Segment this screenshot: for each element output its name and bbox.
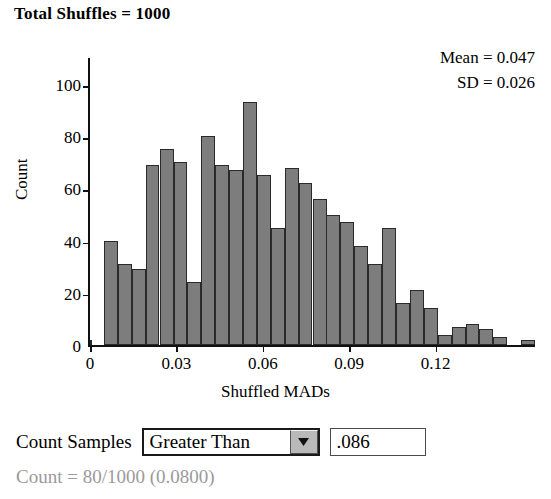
histogram-bars: [90, 58, 535, 345]
comparison-dropdown[interactable]: Greater Than: [142, 428, 320, 456]
histogram-bar: [424, 308, 438, 345]
histogram-bar: [340, 222, 354, 345]
y-tick-label: 0: [73, 337, 82, 357]
histogram-bar: [410, 290, 424, 345]
histogram-bar: [396, 303, 410, 345]
y-axis-label: Count: [12, 158, 32, 200]
y-tick-mark: [83, 138, 88, 140]
histogram-bar: [132, 269, 146, 345]
y-tick-label: 40: [64, 233, 81, 253]
histogram-bar: [493, 337, 507, 345]
histogram-bar: [382, 228, 396, 345]
x-tick-mark: [263, 347, 265, 352]
y-tick-label: 80: [64, 128, 81, 148]
y-tick-mark: [83, 295, 88, 297]
histogram-bar: [521, 340, 535, 345]
count-result-text: Count = 80/1000 (0.0800): [16, 466, 215, 488]
histogram-bar: [452, 327, 466, 345]
y-tick-mark: [83, 86, 88, 88]
histogram-bar: [215, 165, 229, 345]
histogram-bar: [146, 165, 160, 345]
x-tick-mark: [349, 347, 351, 352]
x-tick-label: 0.06: [248, 354, 278, 374]
x-axis-line: [88, 345, 535, 347]
x-tick-label: 0: [86, 354, 95, 374]
page-title: Total Shuffles = 1000: [14, 4, 170, 24]
x-tick-mark: [176, 347, 178, 352]
histogram-bar: [479, 329, 493, 345]
histogram-bar: [187, 282, 201, 345]
x-tick-label: 0.03: [162, 354, 192, 374]
histogram-bar: [160, 149, 174, 345]
y-tick-mark: [83, 190, 88, 192]
count-samples-controls: Count Samples Greater Than: [16, 428, 426, 456]
histogram-bar: [90, 340, 92, 345]
threshold-input[interactable]: [330, 428, 426, 456]
count-samples-label: Count Samples: [16, 431, 132, 453]
histogram-bar: [201, 136, 215, 345]
histogram-bar: [271, 228, 285, 345]
histogram-bar: [299, 183, 313, 345]
x-tick-label: 0.09: [334, 354, 364, 374]
histogram-bar: [313, 199, 327, 345]
y-tick-label: 60: [64, 180, 81, 200]
histogram-bar: [354, 246, 368, 345]
x-tick-mark: [90, 347, 92, 352]
histogram-bar: [368, 264, 382, 345]
chevron-down-icon[interactable]: [290, 430, 318, 454]
histogram-bar: [104, 241, 118, 345]
x-axis-label: Shuffled MADs: [0, 382, 551, 402]
histogram-bar: [118, 264, 132, 345]
y-tick-mark: [83, 243, 88, 245]
comparison-selected-value: Greater Than: [144, 431, 290, 453]
histogram-bar: [285, 168, 299, 345]
histogram-bar: [466, 324, 480, 345]
y-tick-label: 20: [64, 285, 81, 305]
histogram-bar: [438, 335, 452, 345]
histogram-bar: [326, 215, 340, 345]
histogram-bar: [229, 170, 243, 345]
y-tick-label: 100: [56, 76, 82, 96]
x-tick-mark: [436, 347, 438, 352]
histogram-bar: [257, 175, 271, 345]
histogram-plot: 020406080100 00.030.060.090.12: [88, 58, 535, 347]
histogram-bar: [243, 102, 257, 345]
x-tick-label: 0.12: [421, 354, 451, 374]
histogram-bar: [174, 162, 188, 345]
